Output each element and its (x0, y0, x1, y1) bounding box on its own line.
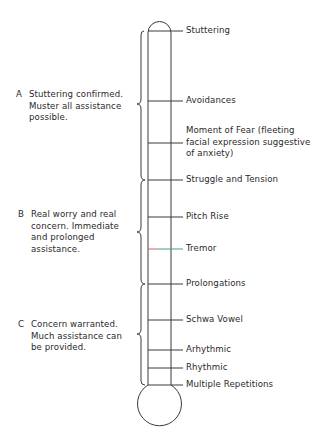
stage-label-arhythmic: Arhythmic (186, 344, 231, 356)
group-b-text: Real worry and real concern. Immediate a… (31, 209, 119, 255)
group-a-letter: A (16, 89, 22, 101)
group-c-text: Concern warranted. Much assistance can b… (31, 319, 122, 354)
stage-label-avoidances: Avoidances (186, 95, 236, 107)
stage-label-schwa-vowel: Schwa Vowel (186, 314, 243, 326)
stage-label-pitch-rise: Pitch Rise (186, 211, 229, 223)
stage-label-multiple-repetitions: Multiple Repetitions (186, 379, 273, 391)
stage-label-struggle-tension: Struggle and Tension (186, 174, 278, 186)
brace-c (137, 284, 145, 385)
stage-label-moment-of-fear: Moment of Fear (fleeting facial expressi… (186, 125, 310, 160)
stage-label-stuttering: Stuttering (186, 25, 230, 37)
brace-b (137, 180, 145, 284)
stage-label-rhythmic: Rhythmic (186, 362, 228, 374)
stage-label-prolongations: Prolongations (186, 278, 246, 290)
group-b-letter: B (18, 209, 24, 221)
thermometer-tube (148, 22, 171, 386)
group-c-letter: C (18, 319, 24, 331)
thermometer-bulb (138, 385, 182, 426)
brace-a (137, 31, 145, 180)
group-a-text: Stuttering confirmed. Muster all assista… (29, 89, 123, 124)
stage-label-tremor: Tremor (186, 243, 216, 255)
